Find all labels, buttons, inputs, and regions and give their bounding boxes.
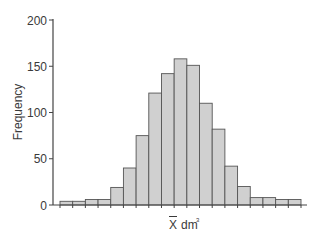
histogram-bar bbox=[200, 103, 213, 205]
histogram-bar bbox=[238, 187, 251, 206]
histogram-bar bbox=[276, 199, 289, 205]
x-axis-label-symbol: X bbox=[169, 218, 177, 232]
histogram-bar bbox=[161, 74, 174, 205]
histogram-bar bbox=[250, 198, 263, 205]
histogram-bar bbox=[98, 199, 111, 205]
y-tick-label: 200 bbox=[27, 14, 47, 28]
histogram-bar bbox=[263, 198, 276, 205]
y-axis-label: Frequency bbox=[11, 84, 25, 141]
histogram-bar bbox=[288, 199, 301, 205]
x-axis-label: X dm 3 bbox=[169, 217, 200, 233]
x-axis-label-superscript: 3 bbox=[196, 217, 200, 223]
histogram-bars bbox=[60, 59, 301, 205]
histogram-bar bbox=[174, 59, 187, 205]
histogram-bar bbox=[123, 168, 136, 205]
histogram-bar bbox=[212, 129, 225, 205]
histogram-chart: 050100150200 Frequency X dm 3 bbox=[0, 0, 323, 240]
y-tick-label: 0 bbox=[40, 199, 47, 213]
histogram-bar bbox=[111, 187, 124, 205]
histogram-bar bbox=[136, 136, 149, 205]
y-tick-label: 50 bbox=[34, 152, 48, 166]
histogram-bar bbox=[225, 166, 238, 205]
histogram-bar bbox=[85, 199, 98, 205]
y-axis-ticks: 050100150200 bbox=[27, 14, 53, 213]
y-tick-label: 100 bbox=[27, 106, 47, 120]
histogram-bar bbox=[149, 93, 162, 205]
histogram-bar bbox=[187, 65, 200, 205]
y-tick-label: 150 bbox=[27, 60, 47, 74]
